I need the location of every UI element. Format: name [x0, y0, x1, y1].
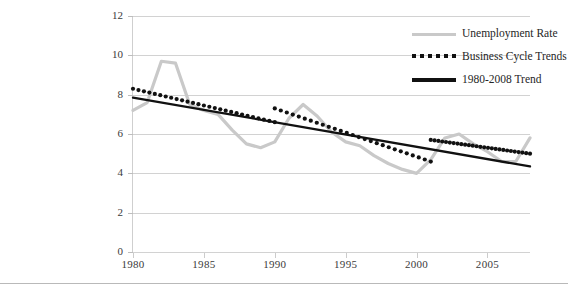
- legend-item-1980-2008-trend: 1980-2008 Trend: [412, 68, 562, 91]
- solid-line-swatch: [412, 78, 456, 82]
- legend-label: Unemployment Rate: [462, 24, 558, 42]
- chart-legend: Unemployment Rate Business Cycle Trends …: [412, 22, 562, 91]
- dotted-line-swatch: [412, 54, 456, 58]
- grey-line-swatch: [412, 33, 456, 36]
- series-1980-2008-trend: [133, 98, 530, 167]
- legend-item-unemployment-rate: Unemployment Rate: [412, 22, 562, 45]
- series-business-cycle-trends: [131, 87, 532, 164]
- chart-figure: 024681012 198019851990199520002005 Unemp…: [0, 0, 568, 293]
- legend-item-business-cycle-trends: Business Cycle Trends: [412, 45, 562, 68]
- footer-divider: [0, 283, 568, 284]
- legend-label: 1980-2008 Trend: [462, 70, 542, 88]
- legend-label: Business Cycle Trends: [462, 47, 567, 65]
